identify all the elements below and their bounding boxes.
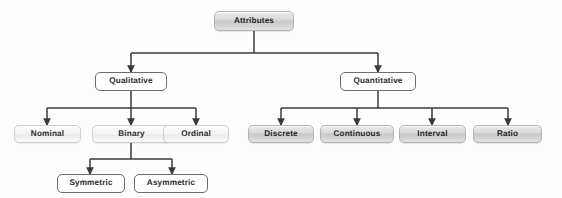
- node-ratio-label: Ratio: [497, 130, 518, 138]
- diagram-canvas: Attributes Qualitative Quantitative Nomi…: [0, 0, 562, 198]
- node-quantitative[interactable]: Quantitative: [340, 72, 416, 91]
- node-interval[interactable]: Interval: [399, 125, 466, 143]
- node-ratio[interactable]: Ratio: [473, 125, 542, 143]
- node-quantitative-label: Quantitative: [353, 77, 402, 85]
- node-qualitative[interactable]: Qualitative: [95, 72, 167, 91]
- node-ordinal[interactable]: Ordinal: [163, 125, 229, 143]
- node-asymmetric[interactable]: Asymmetric: [134, 174, 208, 193]
- node-binary[interactable]: Binary: [92, 125, 171, 143]
- node-attributes-label: Attributes: [234, 17, 274, 25]
- node-continuous-label: Continuous: [334, 130, 381, 138]
- node-nominal-label: Nominal: [31, 130, 64, 138]
- node-qualitative-label: Qualitative: [109, 77, 153, 85]
- node-interval-label: Interval: [417, 130, 447, 138]
- node-discrete[interactable]: Discrete: [248, 125, 314, 143]
- node-attributes[interactable]: Attributes: [214, 11, 294, 31]
- node-asymmetric-label: Asymmetric: [147, 179, 195, 187]
- node-symmetric-label: Symmetric: [69, 179, 112, 187]
- node-nominal[interactable]: Nominal: [14, 125, 81, 143]
- node-discrete-label: Discrete: [264, 130, 298, 138]
- node-ordinal-label: Ordinal: [181, 130, 211, 138]
- node-continuous[interactable]: Continuous: [320, 125, 394, 143]
- node-binary-label: Binary: [118, 130, 144, 138]
- node-symmetric[interactable]: Symmetric: [57, 174, 125, 193]
